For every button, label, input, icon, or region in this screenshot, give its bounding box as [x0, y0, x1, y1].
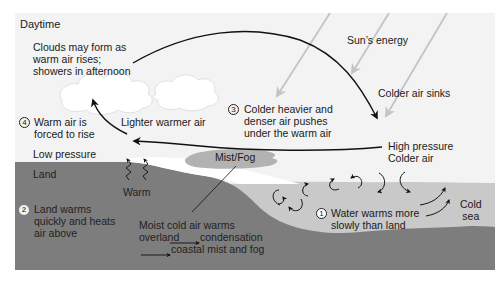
low-pressure-label: Low pressure: [33, 148, 96, 160]
step2-number: 2: [19, 205, 29, 215]
high-pressure-label: High pressure Colder air: [388, 140, 453, 164]
step4-number: 4: [19, 117, 30, 128]
lighter-warmer-air-label: Lighter warmer air: [121, 116, 206, 128]
moist-air-line3: coastal mist and fog: [171, 243, 264, 255]
moist-air-line2a: overland: [139, 231, 179, 243]
step2-text: Land warms quickly and heats air above: [34, 203, 115, 239]
cold-sea-label: Cold sea: [460, 198, 482, 222]
land-label: Land: [33, 168, 56, 180]
moist-air-line1: Moist cold air warms: [139, 219, 235, 231]
colder-air-sinks-label: Colder air sinks: [378, 87, 450, 99]
mist-fog-label: Mist/Fog: [215, 151, 255, 163]
step1-number: 1: [316, 208, 327, 219]
step4-label: 4: [19, 116, 33, 128]
warm-label: Warm: [123, 186, 151, 198]
step3-label: 3: [228, 103, 242, 115]
sea-breeze-diagram: Daytime Clouds may form as warm air rise…: [0, 0, 502, 284]
step3-text: Colder heavier and denser air pushes und…: [244, 103, 333, 139]
clouds-label: Clouds may form as warm air rises; showe…: [33, 41, 130, 77]
step2-label: 2: [19, 203, 32, 215]
daytime-title: Daytime: [20, 18, 60, 30]
moist-air-line2b: condensation: [200, 231, 262, 243]
step3-number: 3: [228, 104, 239, 115]
sun-energy-label: Sun’s energy: [347, 34, 408, 46]
step1-label: 1: [316, 207, 330, 219]
step1-text: Water warms more slowly than land: [331, 207, 419, 231]
step4-text: Warm air is forced to rise: [34, 116, 95, 140]
